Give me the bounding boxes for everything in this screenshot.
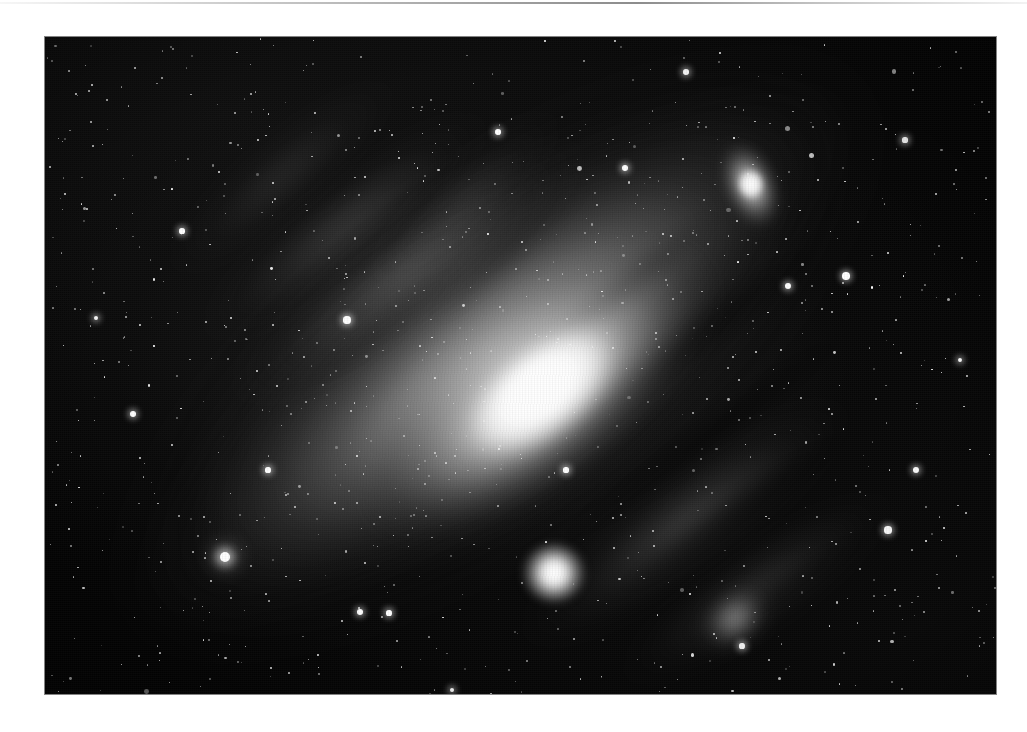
star — [74, 308, 76, 310]
star — [855, 685, 856, 686]
star — [51, 675, 52, 676]
star — [521, 691, 523, 693]
star — [374, 130, 376, 132]
star — [829, 625, 830, 626]
star — [303, 70, 304, 71]
star — [64, 193, 66, 195]
star — [802, 575, 804, 577]
star — [345, 149, 347, 151]
star — [265, 135, 267, 137]
star — [160, 268, 162, 270]
star — [156, 83, 158, 85]
star — [273, 45, 274, 46]
star — [167, 323, 169, 325]
bright-star-19 — [450, 688, 455, 693]
star — [274, 198, 276, 200]
star — [750, 456, 751, 457]
star — [957, 505, 958, 506]
star — [824, 458, 825, 459]
star — [125, 316, 127, 318]
ngc206-star-cloud — [690, 575, 780, 662]
star — [931, 369, 932, 370]
star — [90, 45, 92, 47]
star — [785, 668, 787, 670]
star — [60, 198, 62, 200]
star — [828, 408, 829, 409]
star — [234, 112, 236, 114]
star — [580, 678, 581, 679]
star — [150, 259, 151, 260]
star — [86, 208, 88, 210]
star — [107, 129, 108, 130]
star — [116, 228, 118, 230]
star — [691, 653, 694, 656]
star — [132, 155, 133, 156]
star — [123, 178, 124, 179]
star — [313, 40, 315, 42]
star — [61, 252, 63, 254]
star — [743, 565, 745, 567]
star — [677, 679, 679, 681]
star — [890, 640, 893, 643]
star — [58, 138, 59, 139]
star — [765, 516, 767, 518]
star — [709, 660, 711, 662]
star — [58, 691, 59, 692]
star — [139, 324, 141, 326]
star — [162, 50, 163, 51]
star — [434, 109, 435, 110]
star — [132, 213, 133, 214]
star — [126, 312, 127, 313]
star — [914, 615, 915, 616]
star — [446, 653, 448, 655]
star — [618, 578, 620, 580]
star — [391, 134, 393, 136]
star — [52, 237, 53, 238]
star — [659, 691, 661, 693]
star — [873, 610, 874, 611]
star — [818, 434, 820, 436]
star — [92, 281, 94, 283]
star — [893, 344, 895, 346]
star — [878, 640, 880, 642]
star — [789, 606, 790, 607]
star — [955, 51, 957, 53]
bright-star-3 — [884, 526, 891, 533]
star — [843, 652, 845, 654]
star — [979, 295, 980, 296]
star — [132, 236, 134, 238]
star — [660, 666, 662, 668]
star — [272, 215, 273, 216]
star — [902, 619, 903, 620]
star — [311, 132, 312, 133]
star — [931, 533, 933, 535]
star — [682, 654, 683, 655]
star — [63, 177, 64, 178]
star — [255, 91, 257, 93]
star — [637, 659, 639, 661]
star — [473, 83, 474, 84]
star — [186, 67, 188, 69]
star — [171, 188, 173, 190]
star — [936, 574, 937, 575]
star — [941, 540, 942, 541]
star — [940, 66, 941, 67]
star — [850, 532, 851, 533]
star — [641, 576, 642, 577]
star — [857, 622, 858, 623]
star — [731, 690, 733, 692]
star — [124, 336, 126, 338]
star — [92, 145, 94, 147]
star — [855, 485, 857, 487]
star — [445, 104, 446, 105]
star — [69, 130, 70, 131]
star — [422, 133, 423, 134]
star — [225, 213, 226, 214]
star — [939, 516, 940, 517]
star — [285, 102, 286, 103]
star — [886, 340, 887, 341]
star — [344, 195, 346, 197]
star — [986, 604, 987, 605]
star — [889, 470, 890, 471]
star — [91, 84, 93, 86]
